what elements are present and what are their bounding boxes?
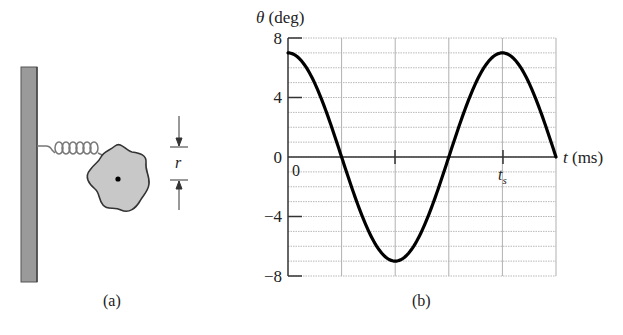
y-tick-neg4: −4 [264, 207, 283, 226]
wall [21, 67, 37, 282]
figure-b: θ (deg) 8 4 0 −4 −8 0 ts t (ms) (b) [256, 8, 603, 310]
ts-label: ts [498, 166, 507, 186]
y-tick-neg8: −8 [264, 267, 282, 286]
y-axis-label: θ (deg) [256, 8, 304, 27]
origin-label: 0 [292, 162, 300, 179]
figure-a: r (a) [21, 67, 188, 310]
pivot-dot [115, 176, 120, 181]
y-tick-0: 0 [274, 148, 283, 167]
y-tick-4: 4 [274, 88, 283, 107]
y-tick-8: 8 [274, 29, 283, 48]
caption-b: (b) [412, 292, 431, 310]
x-axis-label: t (ms) [563, 148, 603, 167]
caption-a: (a) [103, 292, 121, 310]
figure-canvas: r (a) θ (deg) 8 4 0 −4 −8 0 [0, 0, 623, 335]
r-label: r [175, 154, 182, 171]
